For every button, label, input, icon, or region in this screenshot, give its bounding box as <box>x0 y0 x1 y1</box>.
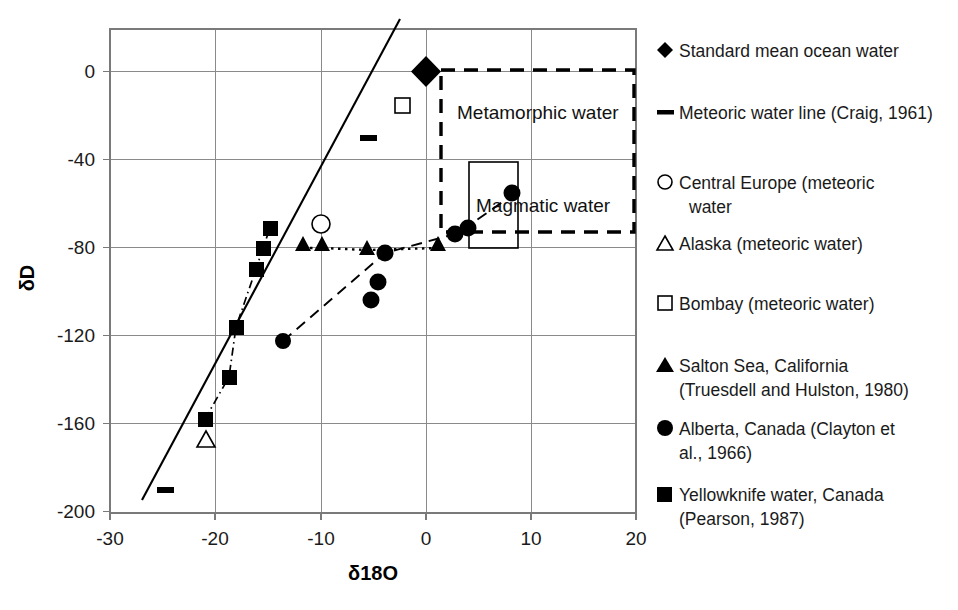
open-square-icon <box>658 296 672 310</box>
open-triangle-icon <box>657 236 673 250</box>
legend-label: Standard mean ocean water <box>679 41 899 61</box>
x-tick-label--20: -20 <box>201 528 228 549</box>
filled-circle-icon <box>657 420 673 436</box>
legend-item-alaska[interactable]: Alaska (meteoric water) <box>657 234 863 254</box>
salton-sea-data-points <box>295 236 446 255</box>
data-point-circle <box>377 245 394 262</box>
legend-item-salton-sea[interactable]: Salton Sea, California (Truesdell and Hu… <box>656 356 909 400</box>
data-point-square <box>198 412 213 427</box>
legend-item-bombay[interactable]: Bombay (meteoric water) <box>658 294 874 314</box>
isotope-scatter-figure: 0 -40 -80 -120 -160 -200 -30 -20 -10 0 1… <box>0 0 958 610</box>
x-axis-title: δ18O <box>348 562 398 584</box>
metamorphic-water-label: Metamorphic water <box>457 102 619 123</box>
meteoric-water-line <box>142 19 400 500</box>
x-tickmarks <box>110 513 636 520</box>
legend-item-meteoric-water-line[interactable]: Meteoric water line (Craig, 1961) <box>657 103 933 123</box>
data-point-dash <box>157 487 174 493</box>
x-tick-label--10: -10 <box>307 528 334 549</box>
data-point-square <box>256 241 271 256</box>
legend-label: Yellowknife water, Canada <box>679 485 884 505</box>
open-circle-icon <box>658 175 672 189</box>
meteoric-line-dash-markers <box>157 135 377 493</box>
y-tick-label--80: -80 <box>68 237 95 258</box>
filled-square-icon <box>657 487 672 502</box>
y-tick-label-0: 0 <box>84 61 95 82</box>
data-point-square <box>249 262 264 277</box>
yellowknife-data-points <box>198 221 278 427</box>
y-tick-label--160: -160 <box>57 413 95 434</box>
y-tick-label--120: -120 <box>57 325 95 346</box>
data-point-triangle <box>295 236 311 251</box>
data-point-square <box>229 320 244 335</box>
data-point-triangle <box>314 236 330 251</box>
legend-label: Central Europe (meteoric <box>679 173 875 193</box>
legend-item-yellowknife[interactable]: Yellowknife water, Canada (Pearson, 1987… <box>657 485 884 529</box>
legend-label-line2: (Truesdell and Hulston, 1980) <box>679 380 909 400</box>
dash-icon <box>657 110 674 115</box>
legend-label: Salton Sea, California <box>679 356 849 376</box>
data-point-square <box>222 370 237 385</box>
x-tick-label-10: 10 <box>520 528 541 549</box>
data-point-open-circle-central-europe <box>312 215 330 233</box>
figure-canvas: 0 -40 -80 -120 -160 -200 -30 -20 -10 0 1… <box>0 0 958 610</box>
legend-label: Meteoric water line (Craig, 1961) <box>679 103 933 123</box>
legend-label: Bombay (meteoric water) <box>679 294 874 314</box>
legend: Standard mean ocean water Meteoric water… <box>656 41 933 529</box>
data-point-diamond-smow <box>411 56 441 87</box>
legend-label-line2: water <box>688 197 732 217</box>
legend-item-central-europe[interactable]: Central Europe (meteoric water <box>658 173 875 217</box>
chart-page: 0 -40 -80 -120 -160 -200 -30 -20 -10 0 1… <box>0 0 958 610</box>
y-axis-title: δD <box>16 265 38 292</box>
legend-label-line2: al., 1966) <box>679 443 752 463</box>
y-tick-label--40: -40 <box>68 149 95 170</box>
x-tick-label-0: 0 <box>421 528 432 549</box>
data-point-circle <box>275 333 291 349</box>
legend-label: Alaska (meteoric water) <box>679 234 863 254</box>
legend-item-standard-mean-ocean-water[interactable]: Standard mean ocean water <box>657 41 899 61</box>
data-point-open-square-bombay <box>395 98 410 113</box>
data-point-circle <box>460 220 477 237</box>
data-point-circle <box>504 185 521 202</box>
y-tickmarks <box>103 72 110 512</box>
data-point-square <box>263 221 278 236</box>
x-tick-label--30: -30 <box>96 528 123 549</box>
filled-diamond-icon <box>657 42 673 58</box>
legend-label-line2: (Pearson, 1987) <box>679 509 805 529</box>
x-tick-label-20: 20 <box>625 528 646 549</box>
data-point-open-triangle-alaska <box>197 431 215 447</box>
data-point-dash <box>360 135 377 141</box>
filled-triangle-icon <box>656 357 674 372</box>
legend-label: Alberta, Canada (Clayton et <box>679 419 895 439</box>
y-tick-label--200: -200 <box>57 501 95 522</box>
data-point-circle <box>370 274 387 291</box>
data-point-circle <box>363 292 380 309</box>
data-point-triangle <box>430 236 446 251</box>
legend-item-alberta[interactable]: Alberta, Canada (Clayton et al., 1966) <box>657 419 895 463</box>
